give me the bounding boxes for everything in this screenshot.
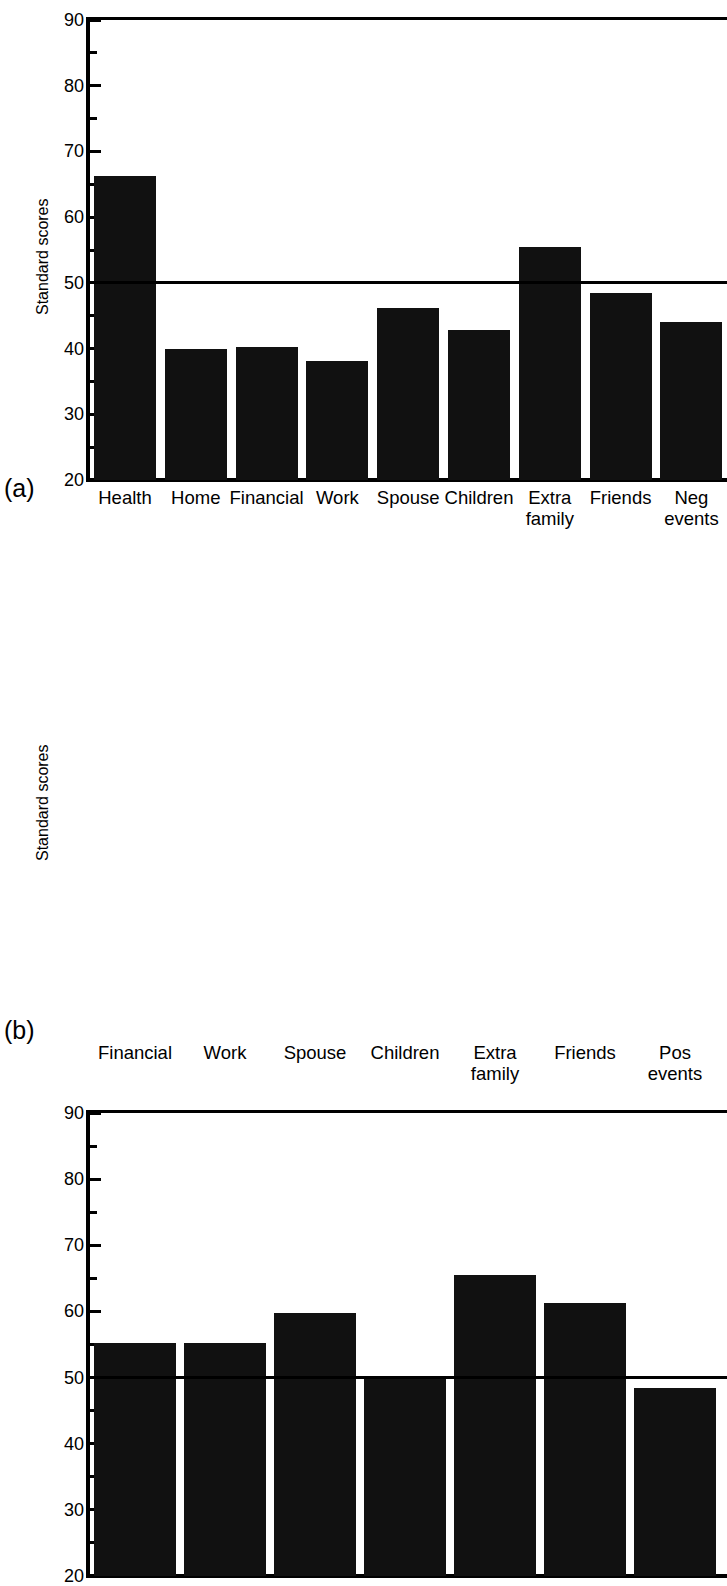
bar	[94, 176, 156, 480]
bar-series-b	[0, 1113, 727, 1576]
x-axis-label: Pos events	[620, 1042, 727, 1084]
reference-line-b	[86, 1376, 727, 1379]
chart-panel-b: (b) Standard scores 2030405060708090 Fin…	[0, 541, 727, 1082]
bar	[364, 1376, 446, 1576]
bar	[448, 330, 510, 480]
bar	[274, 1313, 356, 1576]
bar	[377, 308, 439, 480]
bar	[590, 293, 652, 480]
bar	[306, 361, 368, 480]
bar-series-a	[0, 20, 727, 480]
bar	[165, 349, 227, 480]
chart-panel-a: (a) Standard scores 2030405060708090 Hea…	[0, 0, 727, 541]
bar	[634, 1388, 716, 1576]
panel-letter-b: (b)	[4, 1018, 35, 1043]
bar	[660, 322, 722, 480]
bar	[236, 347, 298, 480]
x-axis-label: Neg events	[636, 487, 727, 529]
bar	[544, 1303, 626, 1576]
bar	[454, 1275, 536, 1576]
reference-line-a	[86, 281, 727, 284]
y-axis-title-b: Standard scores	[34, 744, 52, 861]
